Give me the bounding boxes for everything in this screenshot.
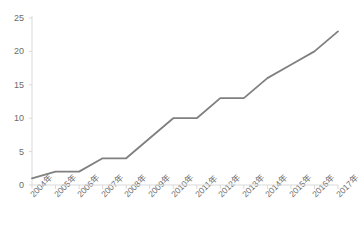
chart-series [32, 31, 338, 178]
series-line [32, 31, 338, 178]
chart-axes [29, 16, 338, 189]
